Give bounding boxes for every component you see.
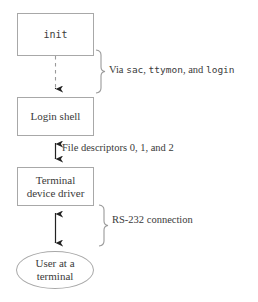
annotation-part-text: Via <box>109 64 126 75</box>
brace-via-sac <box>96 50 105 93</box>
annotation-via-sac-ttymon-login: Via sac, ttymon, and login <box>109 64 235 76</box>
node-init-label: init <box>43 29 67 41</box>
diagram-canvas: init Login shell Terminal device driver … <box>0 0 258 302</box>
brace-rs232 <box>99 205 108 246</box>
annotation-part-text: , and <box>183 64 206 75</box>
annotation-part-code-sac: sac <box>126 64 143 75</box>
node-terminal-device-driver: Terminal device driver <box>17 167 94 206</box>
node-terminal-device-driver-label: Terminal device driver <box>27 174 85 199</box>
annotation-rs232-text: RS-232 connection <box>112 214 193 225</box>
node-user-at-a-terminal: User at a terminal <box>16 251 94 289</box>
annotation-part-code-ttymon: ttymon <box>149 64 183 75</box>
annotation-file-descriptors-text: File descriptors 0, 1, and 2 <box>62 142 174 153</box>
annotation-part-code-login: login <box>206 64 235 75</box>
node-login-shell-label: Login shell <box>31 110 81 123</box>
node-user-at-a-terminal-label: User at a terminal <box>35 257 74 282</box>
node-login-shell: Login shell <box>17 97 94 136</box>
node-init: init <box>17 13 94 56</box>
annotation-rs232-connection: RS-232 connection <box>112 214 193 226</box>
annotation-file-descriptors: File descriptors 0, 1, and 2 <box>62 142 174 154</box>
